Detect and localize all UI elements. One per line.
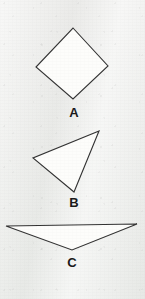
shape-a-diamond	[36, 28, 108, 99]
shape-b-triangle	[33, 131, 99, 192]
figure-sheet: A B C	[0, 0, 145, 299]
shape-c-triangle	[6, 224, 137, 250]
shape-label-b: B	[59, 196, 89, 210]
shape-label-c: C	[57, 256, 87, 270]
shape-label-a: A	[59, 106, 89, 120]
